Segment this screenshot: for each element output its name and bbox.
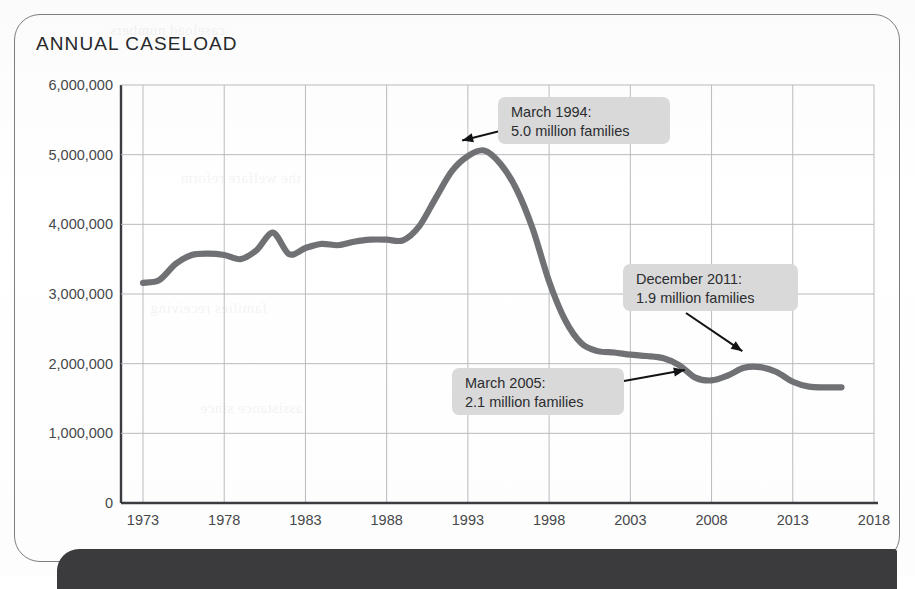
x-tick-label: 1998 [533,512,565,528]
annotation-line-2: 2.1 million families [465,394,583,410]
annotation-callout: March 2005:2.1 million families [452,368,624,415]
x-tick-label: 2008 [695,512,727,528]
x-tick-label: 2018 [858,512,890,528]
annotation-line-1: December 2011: [636,271,742,287]
annotation-line-1: March 1994: [511,104,592,120]
annotation-callout: December 2011:1.9 million families [623,264,798,311]
y-tick-label: 0 [105,495,113,511]
y-tick-label: 1,000,000 [48,425,113,441]
x-axis-tick-labels: 1973197819831988199319982003200820132018 [127,512,890,528]
x-tick-label: 1988 [371,512,403,528]
annotation-line-1: March 2005: [465,375,546,391]
y-tick-label: 3,000,000 [48,286,113,302]
y-tick-label: 5,000,000 [48,147,113,163]
page-footer-band [57,549,897,589]
x-tick-label: 1978 [208,512,240,528]
annotation-arrow [686,313,742,351]
x-tick-label: 2013 [777,512,809,528]
x-tick-label: 1973 [127,512,159,528]
x-tick-label: 2003 [614,512,646,528]
annotation-arrow [624,367,685,381]
x-tick-label: 1993 [452,512,484,528]
annotation-line-2: 5.0 million families [511,123,629,139]
y-tick-label: 4,000,000 [48,216,113,232]
y-tick-label: 2,000,000 [48,356,113,372]
annotation-line-2: 1.9 million families [636,290,754,306]
x-tick-label: 1983 [289,512,321,528]
y-axis-tick-labels: 01,000,0002,000,0003,000,0004,000,0005,0… [48,77,113,511]
annotation-callout: March 1994:5.0 million families [498,97,670,144]
y-tick-label: 6,000,000 [48,77,113,93]
